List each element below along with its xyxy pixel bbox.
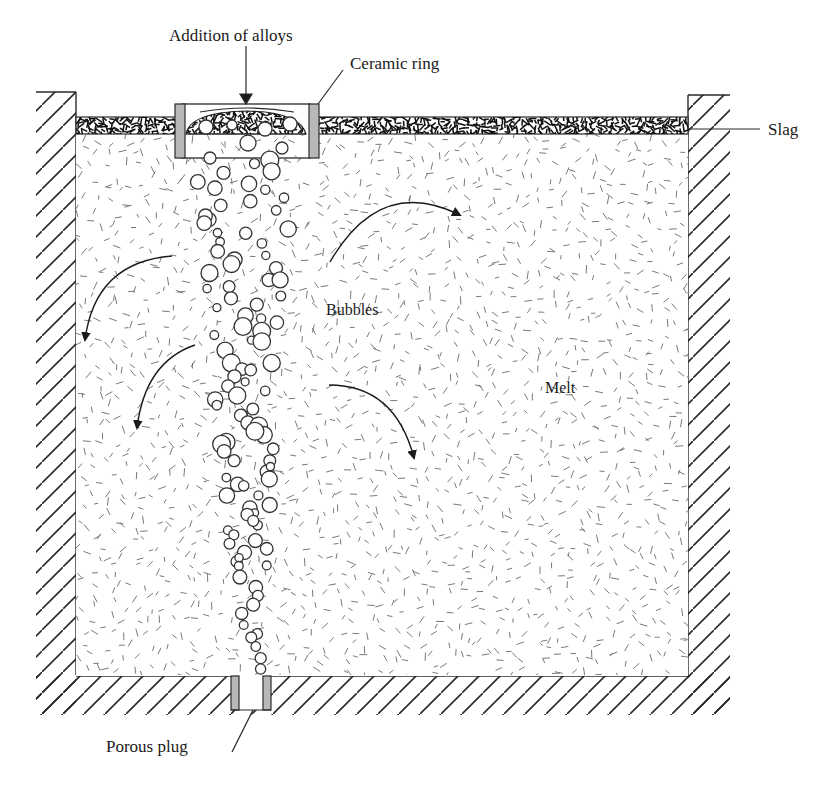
ladle-bottom xyxy=(36,675,730,715)
label-ceramic-ring: Ceramic ring xyxy=(350,54,440,73)
ceramic-ring-leader xyxy=(318,70,343,104)
ladle-diagram: Addition of alloys Ceramic ring Slag Bub… xyxy=(0,0,827,788)
label-bubbles: Bubbles xyxy=(326,301,378,318)
left-wall xyxy=(36,92,76,714)
porous-plug xyxy=(231,676,271,710)
right-wall xyxy=(688,95,730,715)
label-addition-of-alloys: Addition of alloys xyxy=(169,26,293,45)
ceramic-ring xyxy=(175,104,319,163)
label-slag: Slag xyxy=(768,120,799,139)
label-porous-plug: Porous plug xyxy=(106,737,188,756)
label-melt: Melt xyxy=(545,379,576,396)
addition-arrow-head xyxy=(240,94,252,104)
porous-plug-leader xyxy=(232,710,253,752)
